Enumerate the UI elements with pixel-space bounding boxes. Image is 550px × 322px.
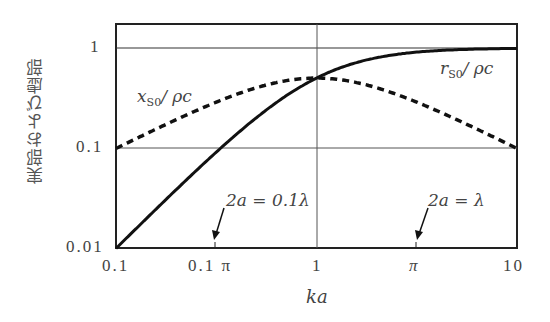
series-label-x: xS0/ ρc [137, 86, 192, 109]
ytick-1: 1 [90, 37, 101, 57]
series-x-denominator: / ρc [161, 86, 192, 106]
xtick-0.1: 0.1 [102, 256, 129, 276]
xtick-0.1pi: 0.1 π [188, 256, 232, 276]
annotation-2a-0.1lambda: 2a = 0.1λ [226, 190, 310, 210]
xtick-pi: π [409, 256, 420, 276]
arrow-annotation-1 [212, 208, 224, 240]
arrow-annotation-2 [415, 208, 428, 240]
ytick-0.01: 0.01 [66, 237, 104, 257]
chart-plot-area [0, 0, 550, 322]
series-r-denominator: / ρc [463, 58, 494, 78]
series-r-symbol: r [440, 58, 448, 78]
y-axis-label: 実部および虚部 [22, 58, 47, 184]
ytick-0.1: 0.1 [76, 137, 103, 157]
annotation-2a-lambda: 2a = λ [428, 190, 485, 210]
x-axis-label: ka [306, 286, 328, 307]
series-x-symbol: x [137, 86, 147, 106]
xtick-1: 1 [312, 256, 323, 276]
series-x-subscript: S0 [147, 96, 162, 109]
series-r-subscript: S0 [448, 68, 463, 81]
series-label-r: rS0/ ρc [440, 58, 493, 81]
xtick-10: 10 [503, 256, 524, 276]
